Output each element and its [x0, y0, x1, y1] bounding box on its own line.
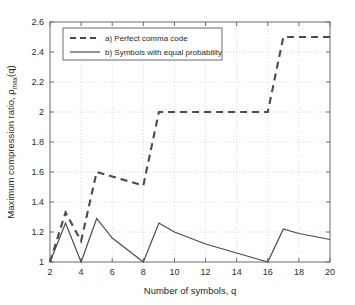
- legend-label-0: a) Perfect comma code: [105, 34, 188, 43]
- y-tick-label-3: 1.6: [31, 167, 44, 177]
- y-axis-label-main: Maximum compression ratio,: [5, 95, 16, 219]
- figure-canvas: 11.21.41.61.822.22.42.6 2468101214161820…: [0, 0, 355, 305]
- x-tick-label-1: 4: [79, 267, 84, 277]
- x-tick-label-8: 18: [294, 267, 304, 277]
- y-axis-label-subscript: max: [11, 76, 18, 89]
- y-axis-label-tail: (q): [5, 65, 16, 77]
- x-tick-label-9: 20: [325, 267, 335, 277]
- x-tick-label-4: 10: [169, 267, 179, 277]
- y-tick-label-6: 2.2: [31, 77, 44, 87]
- y-tick-label-7: 2.4: [31, 47, 44, 57]
- y-tick-label-1: 1.2: [31, 227, 44, 237]
- y-tick-label-8: 2.6: [31, 17, 44, 27]
- y-tick-label-4: 1.8: [31, 137, 44, 147]
- x-tick-label-0: 2: [47, 267, 52, 277]
- y-tick-label-2: 1.4: [31, 197, 44, 207]
- x-tick-label-3: 8: [141, 267, 146, 277]
- y-tick-label-0: 1: [39, 257, 44, 267]
- x-tick-label-5: 12: [201, 267, 211, 277]
- x-tick-label-6: 14: [232, 267, 242, 277]
- x-axis-label: Number of symbols, q: [144, 285, 236, 296]
- y-tick-label-5: 2: [39, 107, 44, 117]
- x-tick-label-7: 16: [263, 267, 273, 277]
- x-tick-label-2: 6: [110, 267, 115, 277]
- chart-plot: 11.21.41.61.822.22.42.6 2468101214161820…: [0, 0, 355, 305]
- chart-legend: a) Perfect comma codeb) Symbols with equ…: [63, 28, 222, 60]
- legend-label-1: b) Symbols with equal probability: [105, 48, 222, 57]
